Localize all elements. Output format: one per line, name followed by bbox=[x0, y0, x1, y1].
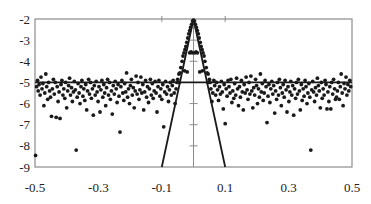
data-point bbox=[250, 89, 254, 93]
data-point bbox=[115, 101, 119, 105]
data-point bbox=[135, 92, 139, 96]
data-point bbox=[88, 92, 92, 96]
data-point bbox=[317, 84, 321, 88]
data-point bbox=[75, 95, 79, 99]
data-point bbox=[271, 92, 275, 96]
data-point bbox=[259, 72, 263, 76]
data-point bbox=[256, 102, 260, 106]
data-point bbox=[341, 104, 345, 108]
y-axis-labels: -2-3-4-5-6-7-8-9 bbox=[19, 12, 30, 175]
x-tick-label: 0.1 bbox=[217, 180, 233, 195]
data-point bbox=[297, 77, 301, 81]
data-point bbox=[57, 90, 61, 94]
data-point bbox=[155, 110, 159, 114]
data-point bbox=[56, 100, 60, 104]
data-point bbox=[227, 85, 231, 89]
data-point bbox=[147, 101, 151, 105]
data-point bbox=[124, 90, 128, 94]
data-point bbox=[145, 95, 149, 99]
data-point bbox=[34, 154, 38, 158]
data-point bbox=[253, 93, 257, 97]
data-point bbox=[119, 85, 123, 89]
data-point bbox=[90, 96, 94, 100]
data-point bbox=[293, 87, 297, 91]
data-point bbox=[93, 93, 97, 97]
data-point bbox=[286, 85, 290, 89]
data-point bbox=[262, 91, 266, 95]
data-point bbox=[232, 96, 236, 100]
data-point bbox=[305, 102, 309, 106]
data-point bbox=[244, 75, 248, 79]
data-point bbox=[77, 91, 81, 95]
data-point bbox=[349, 85, 353, 89]
data-point bbox=[238, 85, 242, 89]
data-point bbox=[134, 74, 138, 78]
data-point bbox=[306, 91, 310, 95]
data-point bbox=[167, 100, 171, 104]
data-point bbox=[277, 93, 281, 97]
data-point bbox=[36, 89, 40, 93]
data-point bbox=[149, 93, 153, 97]
data-point bbox=[71, 100, 75, 104]
data-point bbox=[322, 93, 326, 97]
data-point bbox=[122, 99, 126, 103]
data-point bbox=[131, 86, 135, 90]
data-point bbox=[68, 76, 72, 80]
data-point bbox=[138, 88, 142, 92]
data-point bbox=[258, 95, 262, 99]
data-point bbox=[318, 106, 322, 110]
data-point bbox=[132, 106, 136, 110]
data-point bbox=[312, 90, 316, 94]
data-point bbox=[248, 92, 252, 96]
data-point bbox=[128, 102, 132, 106]
data-point bbox=[55, 85, 59, 89]
data-point bbox=[107, 93, 111, 97]
data-point bbox=[142, 108, 146, 112]
data-point bbox=[63, 96, 67, 100]
data-point bbox=[339, 72, 343, 76]
data-point bbox=[91, 87, 95, 91]
data-point bbox=[61, 93, 65, 97]
data-point bbox=[74, 148, 78, 152]
data-point bbox=[43, 91, 47, 95]
data-point bbox=[291, 84, 295, 88]
data-point bbox=[279, 86, 283, 90]
data-point bbox=[92, 84, 96, 88]
data-point bbox=[44, 72, 48, 76]
data-point bbox=[38, 93, 42, 97]
y-tick-label: -4 bbox=[19, 54, 30, 69]
data-point bbox=[85, 108, 89, 112]
data-point bbox=[265, 121, 269, 125]
data-point bbox=[304, 85, 308, 89]
data-point bbox=[206, 72, 210, 76]
data-point bbox=[65, 106, 69, 110]
data-point bbox=[45, 85, 49, 89]
data-point bbox=[287, 100, 291, 104]
data-point bbox=[328, 85, 332, 89]
data-point bbox=[251, 106, 255, 110]
data-point bbox=[327, 100, 331, 104]
data-point bbox=[308, 95, 312, 99]
data-point bbox=[143, 90, 147, 94]
data-point bbox=[70, 86, 74, 90]
data-point bbox=[246, 97, 250, 101]
data-point bbox=[133, 89, 137, 93]
data-point bbox=[343, 87, 347, 91]
data-point bbox=[149, 77, 153, 81]
data-point bbox=[81, 94, 85, 98]
data-point bbox=[82, 87, 86, 91]
data-point bbox=[214, 93, 218, 97]
x-tick-label: -0.5 bbox=[25, 180, 46, 195]
data-point bbox=[78, 102, 82, 106]
data-point bbox=[257, 87, 261, 91]
data-point bbox=[58, 117, 62, 121]
data-point bbox=[249, 74, 253, 78]
data-point bbox=[288, 90, 292, 94]
data-point bbox=[221, 107, 225, 111]
data-point bbox=[105, 86, 109, 90]
y-tick-label: -2 bbox=[19, 12, 30, 27]
data-point bbox=[223, 122, 227, 126]
scatter-chart: -2-3-4-5-6-7-8-9 -0.5-0.3-0.10.10.30.5 bbox=[0, 0, 371, 204]
data-point bbox=[298, 108, 302, 112]
data-point bbox=[231, 89, 235, 93]
